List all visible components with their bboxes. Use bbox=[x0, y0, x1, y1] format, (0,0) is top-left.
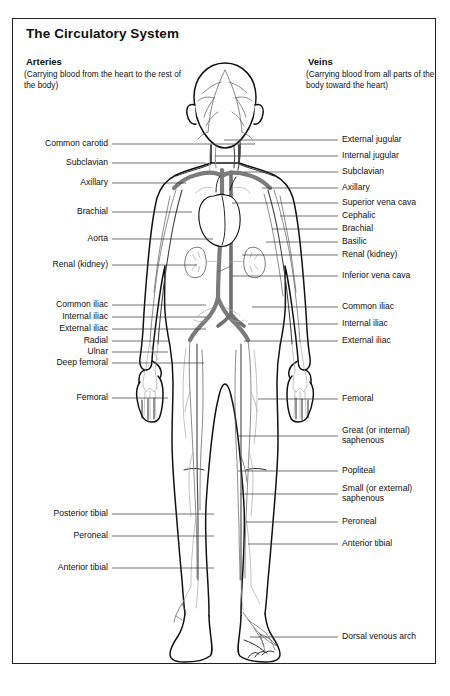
vein-label: Popliteal bbox=[342, 466, 375, 476]
vein-label: Femoral bbox=[342, 394, 374, 404]
vein-label: Subclavian bbox=[342, 167, 384, 177]
vein-label: Internal iliac bbox=[342, 319, 388, 329]
artery-label: Subclavian bbox=[66, 158, 108, 168]
artery-label: Aorta bbox=[87, 234, 108, 244]
artery-label: Common iliac bbox=[56, 300, 108, 310]
artery-label: Brachial bbox=[77, 207, 108, 217]
page-title: The Circulatory System bbox=[26, 26, 179, 41]
vein-label: Axillary bbox=[342, 183, 370, 193]
vein-label: Internal jugular bbox=[342, 151, 399, 161]
vein-label: Renal (kidney) bbox=[342, 250, 397, 260]
artery-label: Renal (kidney) bbox=[53, 260, 108, 270]
vein-label: Inferior vena cava bbox=[342, 271, 410, 281]
artery-label: Radial bbox=[84, 336, 108, 346]
artery-label: Internal iliac bbox=[62, 312, 108, 322]
vein-label: External jugular bbox=[342, 135, 402, 145]
artery-label: Peroneal bbox=[74, 531, 108, 541]
artery-label: Deep femoral bbox=[56, 358, 108, 368]
artery-label: Femoral bbox=[76, 393, 108, 403]
arteries-subtitle: (Carrying blood from the heart to the re… bbox=[24, 70, 194, 91]
artery-label: External iliac bbox=[59, 324, 108, 334]
veins-subtitle: (Carrying blood from all parts of the bo… bbox=[306, 70, 446, 91]
artery-label: Posterior tibial bbox=[54, 509, 108, 519]
vein-label: Peroneal bbox=[342, 517, 376, 527]
vein-label: Small (or external) saphenous bbox=[342, 484, 438, 504]
artery-label: Axillary bbox=[80, 178, 108, 188]
artery-label: Anterior tibial bbox=[58, 563, 108, 573]
veins-heading: Veins bbox=[308, 56, 333, 67]
arteries-heading: Arteries bbox=[26, 56, 62, 67]
artery-label: Common carotid bbox=[45, 139, 108, 149]
vein-label: Common iliac bbox=[342, 302, 394, 312]
artery-label: Ulnar bbox=[87, 347, 108, 357]
vein-label: Cephalic bbox=[342, 211, 375, 221]
vein-label: Basilic bbox=[342, 237, 367, 247]
vein-label: Great (or internal) saphenous bbox=[342, 426, 438, 446]
vein-label: Superior vena cava bbox=[342, 198, 416, 208]
vein-label: External iliac bbox=[342, 336, 391, 346]
vein-label: Dorsal venous arch bbox=[342, 632, 416, 642]
vein-label: Anterior tibial bbox=[342, 539, 392, 549]
vein-label: Brachial bbox=[342, 224, 373, 234]
